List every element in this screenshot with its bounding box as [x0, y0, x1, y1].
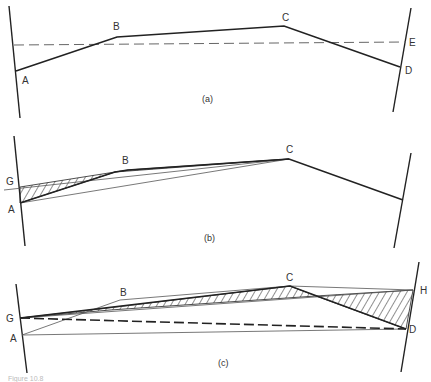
right-wall-a [393, 8, 411, 112]
point-label-a-A: A [22, 75, 29, 86]
left-wall-a [9, 6, 20, 118]
point-label-c-G: G [6, 313, 14, 324]
point-label-c-C: C [286, 272, 293, 283]
figure-caption: Figure 10.8 [8, 375, 44, 382]
profile-line-a [16, 26, 400, 71]
panel-caption-c: (c) [218, 358, 229, 368]
panel-c: G A B C H D (c) [6, 262, 427, 373]
line-G-C-b [4, 159, 289, 190]
point-label-b-C: C [286, 144, 293, 155]
panel-caption-a: (a) [202, 94, 213, 104]
figure-diagram: A B C E D (a) G A B C (b) [0, 0, 431, 382]
point-label-a-B: B [113, 21, 120, 32]
panel-caption-b: (b) [204, 233, 215, 243]
point-label-a-C: C [282, 12, 289, 23]
datum-line-a [14, 42, 406, 45]
panel-a: A B C E D (a) [9, 6, 416, 118]
point-label-c-D: D [409, 324, 416, 335]
point-label-b-B: B [122, 155, 129, 166]
point-label-c-A: A [10, 333, 17, 344]
point-label-a-E: E [409, 37, 416, 48]
left-wall-c [16, 284, 27, 373]
point-label-b-A: A [8, 204, 15, 215]
line-A-D-c [22, 329, 406, 335]
point-label-b-G: G [6, 176, 14, 187]
line-G-D-dashed-c [20, 318, 406, 329]
point-label-a-D: D [405, 65, 412, 76]
point-label-c-B: B [120, 287, 127, 298]
panel-b: G A B C (b) [4, 136, 411, 248]
point-label-c-H: H [420, 285, 427, 296]
